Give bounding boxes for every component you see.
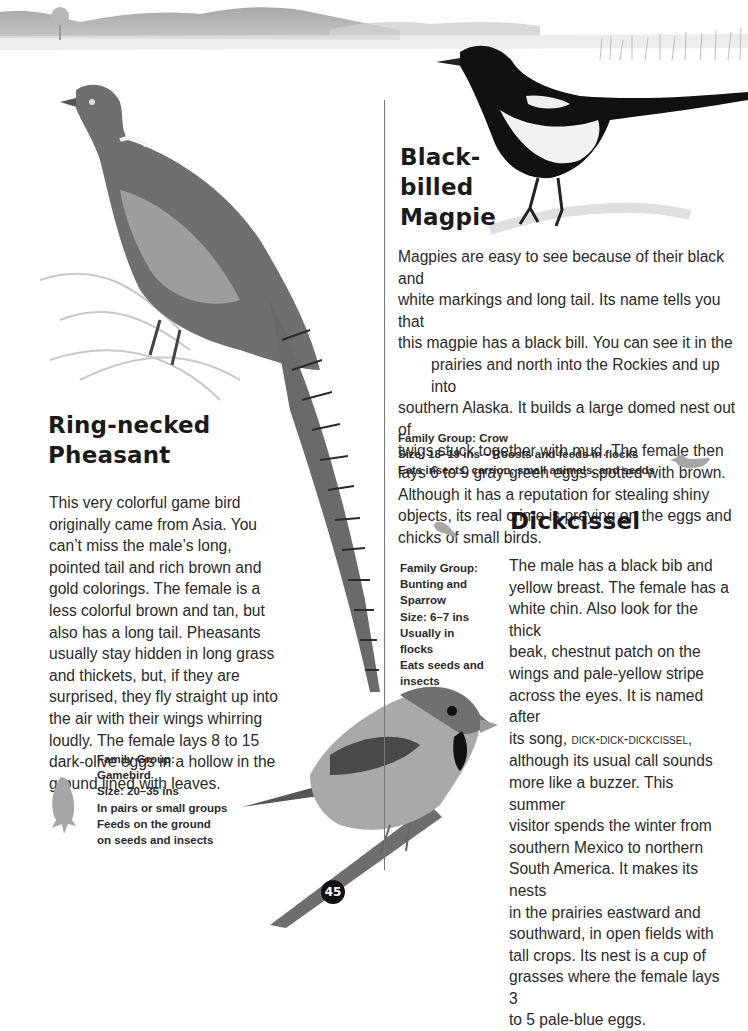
sparrow-silhouette-icon [432,520,458,538]
text-line: to 5 pale-blue eggs. [509,1009,729,1031]
hawk-silhouette-icon [48,776,78,836]
text-line: can’t miss the male’s long, [49,535,349,557]
page-number: 45 [321,880,345,904]
text-line: although its usual call sounds [509,750,729,772]
dickcissel-title: Dickcissel [510,506,640,536]
text-line: yellow breast. The female has a [509,577,729,599]
text-fragment: its song, [509,730,571,747]
habit: Usually in flocks [400,625,490,657]
title-line: Pheasant [48,440,268,470]
magpie-title: Black- billed Magpie [400,142,520,232]
text-line: less colorful brown and tan, but [49,600,349,622]
column-divider [384,100,385,870]
text-line: tall crops. Its nest is a cup of [509,945,729,967]
title-line: billed [400,172,520,202]
text-line: the air with their wings whirring [49,708,349,730]
text-line: Although it has a reputation for stealin… [398,484,743,506]
text-line: its song, dick-dick-dickcissel, [509,728,729,751]
diet-line-1: Eats seeds and [400,657,490,673]
family-group: Family Group: Crow [398,430,698,446]
dickcissel-description: The male has a black bib and yellow brea… [509,555,729,1031]
family-group-value: Bunting and [400,576,490,592]
text-line: white markings and long tail. Its name t… [398,289,743,332]
pheasant-facts: Family Group: Gamebird Size: 20–35 ins I… [97,751,267,848]
diet-line-1: Feeds on the ground [97,816,267,832]
title-line: Black- [400,142,520,172]
title-line: Ring-necked [48,410,268,440]
text-line: Magpies are easy to see because of their… [398,246,743,289]
text-line: more like a buzzer. This summer [509,772,729,815]
diet-line-2: insects [400,673,490,689]
text-line: visitor spends the winter from [509,815,729,837]
diet-line-2: on seeds and insects [97,832,267,848]
text-line: across the eyes. It is named after [509,685,729,728]
text-line: The male has a black bib and [509,555,729,577]
magpie-description: Magpies are easy to see because of their… [398,246,743,548]
text-line: gold colorings. The female is a [49,578,349,600]
text-line: loudly. The female lays 8 to 15 [49,730,349,752]
text-line: southward, in open fields with [509,923,729,945]
pheasant-title: Ring-necked Pheasant [48,410,268,470]
text-line: southern Mexico to northern [509,837,729,859]
family-group-value: Gamebird [97,767,267,783]
text-line: usually stay hidden in long grass [49,643,349,665]
text-line: prairies and north into the Rockies and … [398,354,743,397]
text-line: surprised, they fly straight up into [49,686,349,708]
dickcissel-facts: Family Group: Bunting and Sparrow Size: … [400,560,490,690]
text-line: in the prairies eastward and [509,902,729,924]
size: Size: 6–7 ins [400,609,490,625]
title-line: Magpie [400,202,520,232]
song-name: dick-dick-dickcissel, [571,731,691,747]
text-line: beak, chestnut patch on the [509,641,729,663]
text-line: pointed tail and rich brown and [49,557,349,579]
habit: In pairs or small groups [97,800,267,816]
size: Size: 18–19 ins – Roosts and feeds in fl… [398,446,698,462]
text-line: white chin. Also look for the thick [509,598,729,641]
size: Size: 20–35 ins [97,783,267,799]
text-line: also has a long tail. Pheasants [49,622,349,644]
pheasant-description: This very colorful game bird originally … [49,492,349,794]
family-group-label: Family Group: [400,560,490,576]
magpie-facts: Family Group: Crow Size: 18–19 ins – Roo… [398,430,698,479]
duck-silhouette-icon [668,452,712,470]
text-line: This very colorful game bird [49,492,349,514]
family-group-label: Family Group: [97,751,267,767]
text-line: originally came from Asia. You [49,514,349,536]
text-line: grasses where the female lays 3 [509,966,729,1009]
text-line: this magpie has a black bill. You can se… [398,332,743,354]
family-group-value: Sparrow [400,592,490,608]
text-line: wings and pale-yellow stripe [509,663,729,685]
text-line: and thickets, but, if they are [49,665,349,687]
text-line: South America. It makes its nests [509,858,729,901]
diet: Eats insects, carrion, small animals, an… [398,462,698,478]
